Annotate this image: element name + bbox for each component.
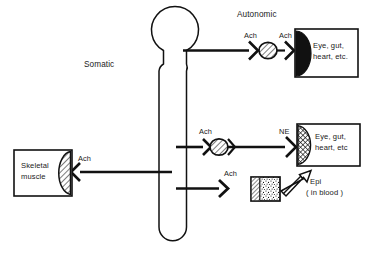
neurotransmitter-label-ach-top-pre: Ach (244, 32, 257, 41)
organ-label-middle-line1: Eye, gut, (315, 133, 346, 142)
diagram-canvas (0, 0, 367, 257)
neurotransmitter-label-ach-middle-pre: Ach (199, 128, 212, 137)
cns-outline (152, 7, 199, 241)
epi-arrow-second-stroke (283, 176, 301, 194)
neurotransmitter-label-ach-somatic: Ach (78, 155, 91, 164)
epi-label-line1: Epi (310, 178, 321, 187)
terminal-postganglionic-middle (286, 137, 296, 157)
neurotransmitter-label-ach-top-post: Ach (279, 32, 292, 41)
adrenal-medulla-hatch-strip (252, 178, 260, 200)
epi-label-line2: ( in blood ) (306, 189, 343, 198)
neurotransmitter-label-ach-bottom: Ach (224, 170, 237, 179)
figure-root: Somatic Autonomic Ach Ach Ach NE Ach Ach… (0, 0, 367, 257)
terminal-preganglionic-top (249, 42, 258, 60)
section-label-autonomic: Autonomic (237, 10, 277, 20)
organ-label-top-line2: heart, etc. (313, 53, 348, 62)
terminal-preganglionic-bottom (219, 180, 228, 197)
terminal-postganglionic-top (285, 42, 294, 60)
ganglion-top (259, 42, 277, 58)
organ-label-top-line1: Eye, gut, (313, 42, 344, 51)
neurotransmitter-label-ne-middle-post: NE (279, 128, 289, 137)
ganglion-middle (210, 139, 228, 155)
organ-label-middle-line2: heart, etc (315, 144, 348, 153)
section-label-somatic: Somatic (84, 60, 114, 70)
muscle-label-line2: muscle (21, 173, 46, 182)
muscle-label-line1: Skeletal (21, 162, 49, 171)
